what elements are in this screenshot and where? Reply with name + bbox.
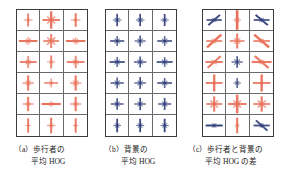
hog-cell-c-r6c2	[226, 115, 249, 136]
hog-cell-c-r5c2	[226, 94, 249, 115]
hog-cell-c-r4c2	[226, 73, 249, 94]
hog-cell-a-r1c1	[17, 10, 40, 31]
hog-cell-a-r6c1	[17, 115, 40, 136]
caption-text-b-line2: 平均 HOG	[104, 156, 155, 168]
hog-cell-a-r1c2	[40, 10, 63, 31]
caption-text-a-line2: 平均 HOG	[14, 156, 65, 168]
hog-cell-a-r6c2	[40, 115, 63, 136]
caption-row: （a）歩行者の 平均 HOG （b）背景の 平均 HOG （c）歩行者と背景の …	[0, 142, 287, 180]
hog-cell-b-r2c3	[153, 31, 176, 52]
caption-tag-c: （c）	[188, 145, 207, 154]
panel-row	[0, 0, 287, 142]
hog-cell-c-r6c3	[250, 115, 273, 136]
hog-figure: （a）歩行者の 平均 HOG （b）背景の 平均 HOG （c）歩行者と背景の …	[0, 0, 287, 180]
hog-cell-c-r3c3	[250, 52, 273, 73]
hog-cell-c-r2c1	[203, 31, 226, 52]
hog-cell-b-r5c1	[106, 94, 129, 115]
hog-cell-a-r2c3	[64, 31, 87, 52]
caption-panel-c: （c）歩行者と背景の 平均 HOG の差	[188, 144, 263, 167]
caption-text-a-line1: 歩行者の	[33, 145, 65, 154]
hog-cell-b-r4c1	[106, 73, 129, 94]
hog-cell-a-r3c1	[17, 52, 40, 73]
hog-cell-b-r3c2	[129, 52, 152, 73]
caption-tag-a: （a）	[14, 145, 33, 154]
hog-cell-c-r3c1	[203, 52, 226, 73]
hog-cell-b-r1c3	[153, 10, 176, 31]
hog-cell-b-r2c2	[129, 31, 152, 52]
caption-panel-a: （a）歩行者の 平均 HOG	[14, 144, 65, 167]
hog-cell-b-r5c3	[153, 94, 176, 115]
hog-cell-a-r5c3	[64, 94, 87, 115]
hog-cell-b-r1c2	[129, 10, 152, 31]
hog-panel-b	[105, 9, 177, 137]
hog-panel-a	[16, 9, 88, 137]
caption-text-c-line2: 平均 HOG の差	[188, 156, 263, 168]
caption-panel-b: （b）背景の 平均 HOG	[104, 144, 155, 167]
hog-cell-b-r6c2	[129, 115, 152, 136]
hog-cell-a-r3c3	[64, 52, 87, 73]
hog-cell-c-r2c2	[226, 31, 249, 52]
hog-cell-b-r3c1	[106, 52, 129, 73]
hog-cell-a-r4c2	[40, 73, 63, 94]
hog-cell-c-r2c3	[250, 31, 273, 52]
hog-cell-c-r4c3	[250, 73, 273, 94]
hog-cell-a-r2c2	[40, 31, 63, 52]
hog-cell-c-r3c2	[226, 52, 249, 73]
hog-cell-a-r5c1	[17, 94, 40, 115]
hog-cell-a-r2c1	[17, 31, 40, 52]
hog-cell-a-r6c3	[64, 115, 87, 136]
hog-cell-a-r4c3	[64, 73, 87, 94]
hog-panel-c	[202, 9, 274, 137]
hog-cell-b-r6c1	[106, 115, 129, 136]
hog-cell-a-r4c1	[17, 73, 40, 94]
hog-cell-b-r4c2	[129, 73, 152, 94]
hog-cell-b-r3c3	[153, 52, 176, 73]
caption-text-b-line1: 背景の	[124, 145, 148, 154]
hog-cell-c-r1c3	[250, 10, 273, 31]
hog-cell-c-r5c3	[250, 94, 273, 115]
hog-cell-a-r5c2	[40, 94, 63, 115]
hog-cell-c-r1c2	[226, 10, 249, 31]
caption-tag-b: （b）	[104, 145, 124, 154]
hog-cell-b-r2c1	[106, 31, 129, 52]
hog-cell-b-r4c3	[153, 73, 176, 94]
hog-cell-c-r4c1	[203, 73, 226, 94]
caption-text-c-line1: 歩行者と背景の	[207, 145, 263, 154]
hog-cell-a-r3c2	[40, 52, 63, 73]
hog-cell-c-r6c1	[203, 115, 226, 136]
hog-cell-a-r1c3	[64, 10, 87, 31]
hog-cell-b-r6c3	[153, 115, 176, 136]
hog-cell-c-r5c1	[203, 94, 226, 115]
hog-cell-b-r1c1	[106, 10, 129, 31]
hog-cell-c-r1c1	[203, 10, 226, 31]
hog-cell-b-r5c2	[129, 94, 152, 115]
